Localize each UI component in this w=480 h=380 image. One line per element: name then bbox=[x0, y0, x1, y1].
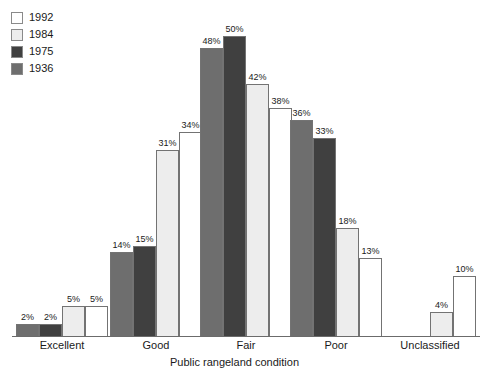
bar-group-fair: 48%50%42%38%Fair bbox=[200, 16, 292, 336]
category-label-poor: Poor bbox=[324, 340, 347, 351]
bar-slot-1936: 48% bbox=[200, 16, 223, 336]
bar-1984-unclassified[interactable] bbox=[430, 312, 453, 336]
bar-1936-poor[interactable] bbox=[290, 120, 313, 336]
bar-1992-unclassified[interactable] bbox=[453, 276, 476, 336]
bar-group-unclassified: 4%10%Unclassified bbox=[384, 16, 476, 336]
bar-value-label: 34% bbox=[181, 121, 199, 130]
group-baseline bbox=[106, 336, 206, 337]
bar-slot-1992: 38% bbox=[269, 16, 292, 336]
bar-value-label: 5% bbox=[90, 295, 103, 304]
bar-value-label: 2% bbox=[44, 313, 57, 322]
group-baseline bbox=[12, 336, 112, 337]
bar-1992-good[interactable] bbox=[179, 132, 202, 336]
bar-1984-good[interactable] bbox=[156, 150, 179, 336]
bar-value-label: 42% bbox=[248, 73, 266, 82]
bar-value-label: 2% bbox=[21, 313, 34, 322]
bar-slot-1992: 5% bbox=[85, 16, 108, 336]
bar-1975-good[interactable] bbox=[133, 246, 156, 336]
bar-slot-1975: 50% bbox=[223, 16, 246, 336]
bar-slot-1936: 2% bbox=[16, 16, 39, 336]
bar-group-bars: 36%33%18%13% bbox=[290, 16, 382, 336]
bar-1936-good[interactable] bbox=[110, 252, 133, 336]
bar-value-label: 50% bbox=[225, 25, 243, 34]
bar-value-label: 31% bbox=[158, 139, 176, 148]
bar-slot-1975 bbox=[407, 16, 430, 336]
category-label-unclassified: Unclassified bbox=[400, 340, 459, 351]
bar-group-bars: 48%50%42%38% bbox=[200, 16, 292, 336]
bar-value-label: 33% bbox=[315, 127, 333, 136]
bar-1984-excellent[interactable] bbox=[62, 306, 85, 336]
bar-1975-poor[interactable] bbox=[313, 138, 336, 336]
bar-value-label: 5% bbox=[67, 295, 80, 304]
category-label-excellent: Excellent bbox=[40, 340, 85, 351]
bar-slot-1975: 33% bbox=[313, 16, 336, 336]
bar-1984-fair[interactable] bbox=[246, 84, 269, 336]
bar-group-bars: 14%15%31%34% bbox=[110, 16, 202, 336]
bar-group-excellent: 2%2%5%5%Excellent bbox=[16, 16, 108, 336]
bar-slot-1984: 5% bbox=[62, 16, 85, 336]
x-axis-title: Public rangeland condition bbox=[0, 357, 469, 368]
bar-group-bars: 4%10% bbox=[384, 16, 476, 336]
bar-value-label: 18% bbox=[338, 217, 356, 226]
bar-value-label: 48% bbox=[202, 37, 220, 46]
bar-value-label: 4% bbox=[435, 301, 448, 310]
bar-value-label: 14% bbox=[112, 241, 130, 250]
bar-1975-excellent[interactable] bbox=[39, 324, 62, 336]
bar-1992-fair[interactable] bbox=[269, 108, 292, 336]
bar-1975-fair[interactable] bbox=[223, 36, 246, 336]
bar-group-good: 14%15%31%34%Good bbox=[110, 16, 202, 336]
bar-slot-1975: 15% bbox=[133, 16, 156, 336]
bar-value-label: 38% bbox=[271, 97, 289, 106]
bar-1936-fair[interactable] bbox=[200, 48, 223, 336]
bar-value-label: 10% bbox=[455, 265, 473, 274]
bar-1992-poor[interactable] bbox=[359, 258, 382, 336]
group-baseline bbox=[286, 336, 386, 337]
bar-1992-excellent[interactable] bbox=[85, 306, 108, 336]
bar-value-label: 36% bbox=[292, 109, 310, 118]
bar-slot-1984: 4% bbox=[430, 16, 453, 336]
bar-group-poor: 36%33%18%13%Poor bbox=[290, 16, 382, 336]
bar-value-label: 13% bbox=[361, 247, 379, 256]
group-baseline bbox=[380, 336, 480, 337]
bar-slot-1992: 34% bbox=[179, 16, 202, 336]
bar-slot-1984: 18% bbox=[336, 16, 359, 336]
bar-slot-1992: 10% bbox=[453, 16, 476, 336]
bar-1984-poor[interactable] bbox=[336, 228, 359, 336]
bar-group-bars: 2%2%5%5% bbox=[16, 16, 108, 336]
bar-slot-1936: 14% bbox=[110, 16, 133, 336]
category-label-good: Good bbox=[143, 340, 170, 351]
bar-slot-1992: 13% bbox=[359, 16, 382, 336]
bar-slot-1984: 31% bbox=[156, 16, 179, 336]
bar-slot-1936 bbox=[384, 16, 407, 336]
category-label-fair: Fair bbox=[237, 340, 256, 351]
group-baseline bbox=[196, 336, 296, 337]
bar-value-label: 15% bbox=[135, 235, 153, 244]
bar-1936-excellent[interactable] bbox=[16, 324, 39, 336]
bar-slot-1975: 2% bbox=[39, 16, 62, 336]
bar-slot-1984: 42% bbox=[246, 16, 269, 336]
bar-slot-1936: 36% bbox=[290, 16, 313, 336]
